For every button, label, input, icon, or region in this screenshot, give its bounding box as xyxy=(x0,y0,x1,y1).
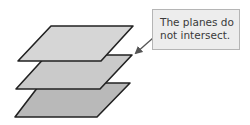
callout-line-2: not intersect. xyxy=(160,29,239,42)
callout-arrow xyxy=(136,38,153,53)
callout-box: The planes do not intersect. xyxy=(152,9,240,50)
callout-line-1: The planes do xyxy=(160,16,239,29)
